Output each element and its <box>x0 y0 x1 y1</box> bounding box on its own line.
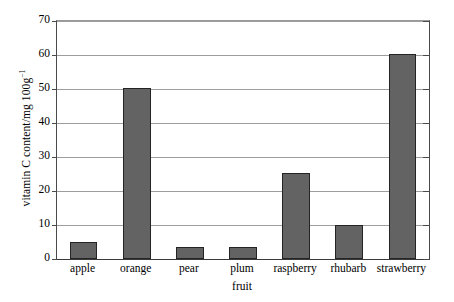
bar <box>176 247 204 259</box>
y-axis-tick-label: 40 <box>4 116 50 128</box>
y-axis-tick-mark-right <box>423 259 429 260</box>
y-axis-tick-labels: 010203040506070 <box>0 0 50 302</box>
y-axis-tick-label: 30 <box>4 150 50 162</box>
bar <box>389 54 417 259</box>
y-axis-tick-label: 20 <box>4 184 50 196</box>
y-axis-tick-mark-left <box>52 259 57 260</box>
y-axis-tick-label: 10 <box>4 218 50 230</box>
bar <box>70 242 98 259</box>
bar <box>335 225 363 259</box>
x-axis-tick-labels: appleorangepearplumraspberryrhubarbstraw… <box>56 261 428 277</box>
y-axis-tick-label: 70 <box>4 14 50 26</box>
x-axis-tick-label: raspberry <box>273 261 316 275</box>
bar <box>229 247 257 259</box>
y-axis-tick-label: 0 <box>4 252 50 264</box>
x-axis-tick-label: orange <box>120 261 151 275</box>
plot-area <box>56 20 430 260</box>
x-axis-tick-label: pear <box>179 261 199 275</box>
bar-chart-figure: vitamin C content/mg 100g−1 010203040506… <box>0 0 454 302</box>
x-axis-tick-label: plum <box>230 261 254 275</box>
x-axis-title: fruit <box>56 279 428 293</box>
y-axis-tick-label: 50 <box>4 82 50 94</box>
bar <box>282 173 310 259</box>
y-axis-tick-label: 60 <box>4 48 50 60</box>
x-axis-tick-label: strawberry <box>377 261 426 275</box>
x-axis-tick-label: rhubarb <box>330 261 366 275</box>
bars-layer <box>57 21 429 259</box>
bar <box>123 88 151 259</box>
x-axis-tick-label: apple <box>70 261 95 275</box>
